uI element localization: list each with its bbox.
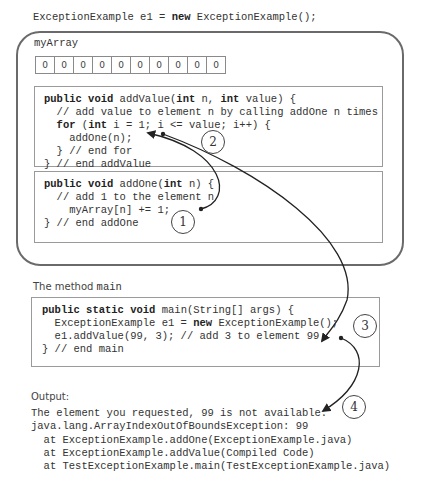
- keyword-new: new: [172, 11, 191, 23]
- code-line: public void addValue(int n, int value) {: [44, 93, 382, 106]
- output-line: at TestExceptionExample.main(TestExcepti…: [31, 460, 390, 473]
- array-cell: 0: [188, 57, 207, 73]
- keyword: public static void: [42, 304, 155, 316]
- array-cell: 0: [207, 57, 225, 73]
- declaration-text: ExceptionExample e1 =: [33, 11, 172, 23]
- array-cell: 0: [112, 57, 131, 73]
- code-line: } // end addValue: [44, 158, 382, 171]
- keyword: int: [164, 178, 183, 190]
- code-text: addOne(: [113, 178, 163, 190]
- code-text: i = 1; i <= value; i++) {: [107, 119, 271, 131]
- keyword: int: [88, 119, 107, 131]
- keyword: for: [57, 119, 76, 131]
- output-line: at ExceptionExample.addOne(ExceptionExam…: [31, 434, 390, 447]
- code-text: n) {: [183, 178, 215, 190]
- code-line: } // end main: [42, 343, 379, 356]
- code-line: // add 1 to the element n: [44, 191, 382, 204]
- code-text: value) {: [239, 93, 296, 105]
- keyword: public void: [44, 178, 113, 190]
- main-method-box: public static void main(String[] args) {…: [31, 297, 380, 367]
- output-line: at ExceptionExample.addValue(Compiled Co…: [31, 447, 390, 460]
- declaration-text: ExceptionExample();: [191, 11, 317, 23]
- keyword: new: [193, 317, 212, 329]
- step-3-badge: 3: [353, 314, 377, 338]
- array-cells: 0 0 0 0 0 0 0 0 0 0: [35, 56, 226, 74]
- code-text: ExceptionExample e1 =: [42, 317, 193, 329]
- label-text: The method: [33, 281, 97, 292]
- array-cell: 0: [74, 57, 93, 73]
- keyword: int: [176, 93, 195, 105]
- code-text: addValue(: [113, 93, 176, 105]
- step-2-badge: 2: [201, 130, 225, 154]
- code-line: e1.addValue(99, 3); // add 3 to element …: [42, 330, 379, 343]
- code-line: public static void main(String[] args) {: [42, 304, 379, 317]
- array-cell: 0: [169, 57, 188, 73]
- step-1-badge: 1: [171, 210, 195, 234]
- code-line: myArray[n] += 1;: [44, 204, 382, 217]
- code-line: // add value to element n by calling add…: [44, 106, 382, 119]
- array-cell: 0: [55, 57, 74, 73]
- code-line: public void addOne(int n) {: [44, 178, 382, 191]
- add-value-method-box: public void addValue(int n, int value) {…: [34, 86, 383, 167]
- step-4-badge: 4: [342, 395, 366, 419]
- code-line: } // end addOne: [44, 217, 382, 230]
- array-cell: 0: [150, 57, 169, 73]
- add-one-method-box: public void addOne(int n) { // add 1 to …: [34, 171, 383, 243]
- main-section-label: The method main: [33, 280, 122, 293]
- output-line: java.lang.ArrayIndexOutOfBoundsException…: [31, 420, 390, 433]
- output-label: Output:: [31, 390, 69, 403]
- code-line: ExceptionExample e1 = new ExceptionExamp…: [42, 317, 379, 330]
- code-text: n,: [195, 93, 220, 105]
- label-code: main: [97, 281, 122, 293]
- array-cell: 0: [131, 57, 150, 73]
- array-cell: 0: [36, 57, 55, 73]
- keyword: public void: [44, 93, 113, 105]
- code-text: main(String[] args) {: [155, 304, 294, 316]
- array-cell: 0: [93, 57, 112, 73]
- array-label: myArray: [34, 37, 78, 50]
- output-line: The element you requested, 99 is not ava…: [31, 407, 390, 420]
- code-text: ExceptionExample();: [212, 317, 338, 329]
- code-text: (: [76, 119, 89, 131]
- object-declaration: ExceptionExample e1 = new ExceptionExamp…: [33, 11, 317, 24]
- keyword: int: [220, 93, 239, 105]
- code-text: [44, 119, 57, 131]
- output-console: The element you requested, 99 is not ava…: [31, 407, 390, 473]
